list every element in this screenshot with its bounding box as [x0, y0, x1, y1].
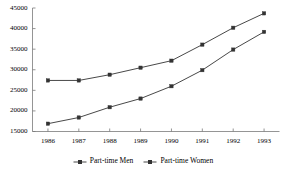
legend-item-part-time-men[interactable]: Part-time Men: [73, 152, 134, 170]
x-axis-tick-label: 1993: [248, 138, 280, 145]
data-point-marker: [108, 106, 111, 109]
x-axis-tick-label: 1988: [94, 138, 126, 145]
chart-axes: [33, 8, 280, 132]
data-point-marker: [231, 48, 234, 51]
chart-plot-area: [0, 0, 286, 175]
legend-label: Part-time Men: [90, 157, 134, 165]
data-point-marker: [262, 30, 265, 33]
x-axis-tick-label: 1989: [125, 138, 157, 145]
data-point-marker: [108, 73, 111, 76]
x-axis-tick-label: 1991: [186, 138, 218, 145]
data-point-marker: [262, 12, 265, 15]
chart-series-lines: [46, 12, 266, 126]
data-point-marker: [77, 79, 80, 82]
data-point-marker: [139, 66, 142, 69]
series-line-part-time-women: [48, 13, 264, 80]
y-axis-tick-label: 15000: [0, 128, 28, 135]
data-point-marker: [231, 26, 234, 29]
data-point-marker: [170, 85, 173, 88]
data-point-marker: [201, 43, 204, 46]
data-point-marker: [201, 68, 204, 71]
x-axis-tick-label: 1990: [155, 138, 187, 145]
chart-legend: Part-time MenPart-time Women: [0, 152, 286, 170]
data-point-marker: [46, 79, 49, 82]
data-point-marker: [170, 59, 173, 62]
chart-container: 15000200002500030000350004000045000 1986…: [0, 0, 286, 175]
data-point-marker: [139, 97, 142, 100]
y-axis-tick-label: 30000: [0, 66, 28, 73]
series-line-part-time-men: [48, 32, 264, 124]
legend-marker-part-time-women: [143, 152, 157, 170]
chart-tick-marks: [33, 8, 265, 132]
x-axis-tick-label: 1992: [217, 138, 249, 145]
x-axis-tick-label: 1987: [63, 138, 95, 145]
y-axis-tick-label: 45000: [0, 5, 28, 12]
legend-marker-part-time-men: [73, 152, 87, 170]
y-axis-tick-label: 25000: [0, 87, 28, 94]
data-point-marker: [77, 116, 80, 119]
x-axis-tick-label: 1986: [32, 138, 64, 145]
legend-label: Part-time Women: [160, 157, 213, 165]
y-axis-tick-label: 35000: [0, 46, 28, 53]
data-point-marker: [46, 122, 49, 125]
y-axis-tick-label: 20000: [0, 107, 28, 114]
y-axis-tick-label: 40000: [0, 25, 28, 32]
legend-item-part-time-women[interactable]: Part-time Women: [143, 152, 213, 170]
